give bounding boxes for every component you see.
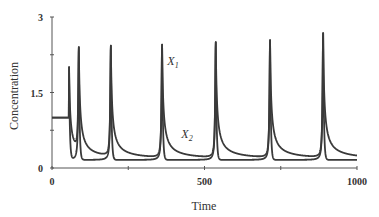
- series-line-x2: [52, 33, 357, 160]
- y-axis-title: Concentration: [7, 62, 21, 130]
- x-axis-title: Time: [192, 199, 217, 213]
- y-ticks: 01.53: [31, 12, 55, 174]
- series-labels: X1X2: [166, 54, 192, 143]
- x-tick-label: 500: [197, 176, 212, 187]
- series-lines: [52, 33, 357, 160]
- x-ticks: 05001000: [50, 166, 368, 187]
- series-label-x1: X1: [166, 54, 178, 70]
- series-line-x1: [52, 33, 357, 160]
- x-tick-label: 0: [50, 176, 55, 187]
- y-tick-label: 3: [38, 12, 43, 23]
- concentration-time-chart: 05001000 01.53 X1X2 Time Concentration: [0, 0, 379, 217]
- x-tick-label: 1000: [347, 176, 367, 187]
- series-label-x2: X2: [180, 127, 192, 143]
- axes: 05001000 01.53: [31, 12, 368, 187]
- y-tick-label: 0: [38, 163, 43, 174]
- y-tick-label: 1.5: [31, 88, 44, 99]
